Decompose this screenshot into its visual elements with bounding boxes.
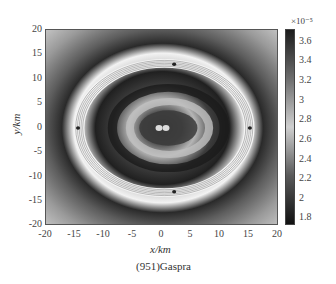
y-tick: -10: [22, 170, 42, 181]
x-tick: 0: [149, 228, 173, 239]
x-tick: -15: [62, 228, 86, 239]
colorbar-tick: 3.2: [299, 74, 312, 85]
colorbar-tick: 3.6: [299, 35, 312, 46]
y-tick: 10: [22, 72, 42, 83]
x-tick: 10: [207, 228, 231, 239]
heatmap-svg: [46, 30, 278, 225]
colorbar-tick: 2.2: [299, 172, 312, 183]
x-tick: -10: [91, 228, 115, 239]
heatmap-plot-area: [45, 29, 278, 225]
x-tick: -20: [33, 228, 57, 239]
colorbar-tick: 2.8: [299, 113, 312, 124]
y-tick: 0: [22, 121, 42, 132]
colorbar-tick: 2.4: [299, 153, 312, 164]
y-tick: 15: [22, 47, 42, 58]
y-tick: -15: [22, 194, 42, 205]
x-tick: 20: [265, 228, 289, 239]
y-axis-label: y/km: [10, 114, 22, 135]
colorbar-tick: 2: [299, 192, 304, 203]
colorbar-exponent: ×10⁻⁵: [291, 16, 313, 26]
x-tick: 15: [236, 228, 260, 239]
y-tick: -5: [22, 145, 42, 156]
x-tick: -5: [120, 228, 144, 239]
colorbar: [285, 29, 295, 225]
colorbar-tick: 3: [299, 94, 304, 105]
figure-caption: (951)Gaspra: [136, 260, 191, 272]
x-tick: 5: [178, 228, 202, 239]
y-tick: 5: [22, 96, 42, 107]
y-tick: 20: [22, 23, 42, 34]
x-axis-label: x/km: [150, 243, 171, 255]
colorbar-tick: 1.8: [299, 211, 312, 222]
colorbar-tick: 2.6: [299, 133, 312, 144]
colorbar-tick: 3.4: [299, 54, 312, 65]
